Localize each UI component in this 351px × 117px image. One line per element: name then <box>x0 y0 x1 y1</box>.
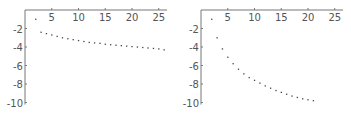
plot-left: 510152025-2-4-6-8-10 <box>0 0 175 117</box>
data-point <box>62 37 63 38</box>
x-tick-label: 15 <box>99 12 112 23</box>
y-tick-label: -10 <box>7 98 23 109</box>
data-point <box>40 32 41 33</box>
y-tick-label: -2 <box>189 24 199 35</box>
data-point <box>83 41 84 42</box>
data-point <box>67 38 68 39</box>
data-point <box>216 37 217 38</box>
data-point <box>94 42 95 43</box>
x-tick-label: 20 <box>302 12 315 23</box>
data-point <box>158 48 159 49</box>
data-point <box>254 80 255 81</box>
data-point <box>249 77 250 78</box>
data-point <box>78 40 79 41</box>
data-point <box>238 69 239 70</box>
data-point <box>73 39 74 40</box>
data-point <box>307 99 308 100</box>
data-point <box>233 63 234 64</box>
x-tick-label: 25 <box>328 12 341 23</box>
data-point <box>57 36 58 37</box>
data-point <box>126 45 127 46</box>
data-point <box>137 46 138 47</box>
data-point <box>211 19 212 20</box>
data-point <box>142 47 143 48</box>
y-tick-label: -8 <box>13 79 23 90</box>
plot-right: 510152025-2-4-6-8-10 <box>176 0 351 117</box>
x-tick-label: 20 <box>126 12 139 23</box>
data-point <box>110 44 111 45</box>
y-tick-label: -6 <box>189 61 199 72</box>
data-point <box>46 33 47 34</box>
x-tick-label: 25 <box>152 12 165 23</box>
data-point <box>131 46 132 47</box>
x-tick-label: 15 <box>275 12 288 23</box>
data-point <box>51 34 52 35</box>
data-point <box>302 98 303 99</box>
data-point <box>259 82 260 83</box>
data-point <box>265 85 266 86</box>
y-tick-label: -6 <box>13 61 23 72</box>
y-tick-label: -4 <box>189 42 199 53</box>
y-tick-label: -4 <box>13 42 23 53</box>
data-point <box>275 90 276 91</box>
y-tick-label: -8 <box>189 79 199 90</box>
x-tick-label: 10 <box>248 12 261 23</box>
data-point <box>99 43 100 44</box>
data-point <box>164 49 165 50</box>
data-point <box>105 44 106 45</box>
data-point <box>115 45 116 46</box>
data-point <box>291 95 292 96</box>
x-tick-label: 10 <box>72 12 85 23</box>
data-point <box>227 57 228 58</box>
data-point <box>281 92 282 93</box>
data-point <box>313 100 314 101</box>
data-point <box>270 88 271 89</box>
data-point <box>121 45 122 46</box>
scatter-chart: 510152025-2-4-6-8-10 <box>176 0 351 117</box>
data-point <box>35 19 36 20</box>
data-point <box>89 42 90 43</box>
data-point <box>147 47 148 48</box>
y-tick-label: -10 <box>183 98 199 109</box>
scatter-chart: 510152025-2-4-6-8-10 <box>0 0 175 117</box>
x-tick-label: 5 <box>49 12 55 23</box>
data-point <box>222 48 223 49</box>
x-tick-label: 5 <box>225 12 231 23</box>
data-point <box>153 48 154 49</box>
data-point <box>297 97 298 98</box>
data-point <box>243 73 244 74</box>
data-point <box>286 94 287 95</box>
y-tick-label: -2 <box>13 24 23 35</box>
